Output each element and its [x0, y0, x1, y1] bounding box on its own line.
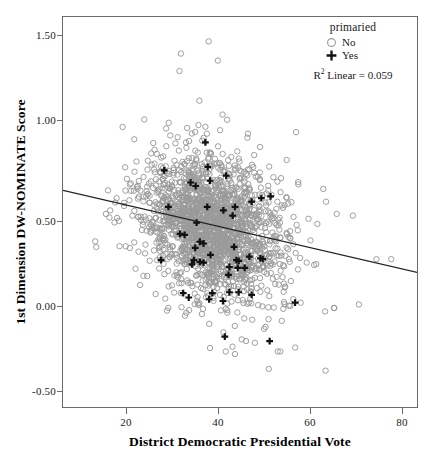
- y-tick-label-100: 1.00: [28, 115, 56, 126]
- plot-area: primaried No Yes R2 Linear = 0.059: [62, 16, 418, 408]
- x-tick-60: [310, 408, 311, 414]
- r-squared-annotation: R2 Linear = 0.059: [313, 67, 392, 81]
- legend-title: primaried: [330, 21, 377, 33]
- plus-icon: [325, 50, 338, 61]
- x-tick-label-40: 40: [202, 417, 234, 428]
- chart-canvas: 1st Dimension DW-NOMINATE Score 1.50 1.0…: [0, 0, 433, 472]
- legend: primaried No Yes R2 Linear = 0.059: [293, 21, 413, 81]
- legend-item-no[interactable]: No: [325, 36, 381, 48]
- y-tick-label-000: 0.00: [28, 301, 56, 312]
- y-axis-label-wrapper: 1st Dimension DW-NOMINATE Score: [14, 16, 32, 408]
- x-axis-label: District Democratic Presidential Vote: [62, 434, 418, 450]
- legend-label-no: No: [342, 36, 355, 48]
- series-no-markers: [92, 39, 393, 374]
- x-tick-label-80: 80: [386, 417, 418, 428]
- x-tick-40: [218, 408, 219, 414]
- y-axis-label: 1st Dimension DW-NOMINATE Score: [12, 16, 30, 408]
- y-tick-label-neg050: -0.50: [22, 386, 56, 397]
- open-circle-icon: [325, 37, 338, 48]
- x-tick-label-60: 60: [294, 417, 326, 428]
- x-tick-label-20: 20: [110, 417, 142, 428]
- legend-label-yes: Yes: [342, 49, 358, 61]
- y-tick-label-050: 0.50: [28, 216, 56, 227]
- legend-item-yes[interactable]: Yes: [325, 49, 381, 61]
- r2-prefix: R: [313, 69, 320, 81]
- r2-text: Linear = 0.059: [325, 69, 393, 81]
- y-tick-label-150: 1.50: [28, 30, 56, 41]
- x-tick-20: [126, 408, 127, 414]
- x-tick-80: [402, 408, 403, 414]
